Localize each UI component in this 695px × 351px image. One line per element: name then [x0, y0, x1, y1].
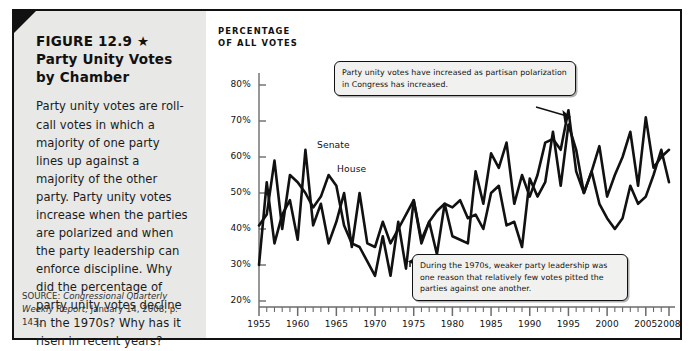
x-axis-tick-label: 2000 [590, 319, 624, 329]
y-axis-tick-label: 20% [217, 295, 251, 305]
figure-container: FIGURE 12.9 ★ Party Unity Votes by Chamb… [0, 0, 695, 351]
x-axis-tick-label: 1975 [397, 319, 431, 329]
chart-panel: PERCENTAGEOF ALL VOTES Senate House Part… [206, 11, 680, 338]
x-axis-tick-label: 1970 [358, 319, 392, 329]
series-label-house: House [337, 163, 366, 174]
source-prefix: SOURCE: [22, 291, 63, 301]
x-axis-tick-label: 1965 [319, 319, 353, 329]
x-axis-tick-label: 1960 [281, 319, 315, 329]
figure-title: FIGURE 12.9 ★ Party Unity Votes by Chamb… [36, 33, 190, 86]
x-axis-tick-label: 1955 [242, 319, 276, 329]
y-axis-tick-label: 60% [217, 151, 251, 161]
figure-number: FIGURE 12.9 ★ [36, 33, 149, 49]
figure-title-text: Party Unity Votes by Chamber [36, 51, 172, 85]
x-axis-tick-label: 2008 [652, 319, 686, 329]
corner-fold-decoration [14, 11, 36, 33]
annotation-callout-bottom: During the 1970s, weaker party leadershi… [412, 254, 628, 301]
annotation-callout-top: Party unity votes have increased as part… [334, 61, 576, 96]
figure-source-note: SOURCE: Congressional Quarterly Weekly R… [22, 290, 182, 329]
x-axis-tick-label: 1995 [551, 319, 585, 329]
x-axis-tick-label: 1990 [513, 319, 547, 329]
y-axis-tick-label: 80% [217, 79, 251, 89]
y-axis-tick-label: 40% [217, 223, 251, 233]
series-label-senate: Senate [317, 139, 350, 150]
x-axis-tick-label: 1980 [435, 319, 469, 329]
y-axis-tick-label: 70% [217, 115, 251, 125]
y-axis-tick-label: 30% [217, 259, 251, 269]
figure-caption-panel: FIGURE 12.9 ★ Party Unity Votes by Chamb… [14, 11, 206, 338]
y-axis-tick-label: 50% [217, 187, 251, 197]
x-axis-tick-label: 1985 [474, 319, 508, 329]
